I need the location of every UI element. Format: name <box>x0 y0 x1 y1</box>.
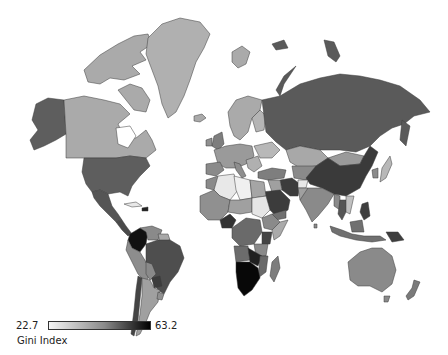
legend-title: Gini Index <box>17 335 67 346</box>
region-madagascar[interactable] <box>270 256 280 282</box>
region-namibia-botswana[interactable] <box>236 262 260 296</box>
legend-max-label: 63.2 <box>155 320 177 331</box>
region-australia[interactable] <box>348 248 396 292</box>
region-korea[interactable] <box>372 168 378 178</box>
world-choropleth-map <box>0 0 448 355</box>
legend-color-scale <box>48 321 151 330</box>
region-united-states[interactable] <box>82 156 150 196</box>
region-sri-lanka[interactable] <box>314 224 317 228</box>
region-haiti[interactable] <box>142 207 148 211</box>
region-ireland[interactable] <box>206 138 212 146</box>
region-tasmania[interactable] <box>384 296 390 302</box>
region-philippines[interactable] <box>360 202 370 220</box>
region-niger-chad[interactable] <box>228 198 252 214</box>
legend-min-label: 22.7 <box>16 320 38 331</box>
region-egypt[interactable] <box>250 180 266 198</box>
region-arctic-canada[interactable] <box>84 34 152 84</box>
region-cuba[interactable] <box>124 202 142 207</box>
region-vietnam[interactable] <box>346 196 354 214</box>
legend: 22.7 63.2 Gini Index <box>14 316 244 352</box>
region-libya[interactable] <box>234 176 252 200</box>
region-turkey[interactable] <box>258 168 286 180</box>
region-central-africa[interactable] <box>232 218 262 246</box>
region-central-america[interactable] <box>116 220 132 236</box>
region-mexico[interactable] <box>92 190 122 222</box>
region-angola[interactable] <box>234 246 250 262</box>
region-iberia[interactable] <box>206 162 224 176</box>
region-afghanistan[interactable] <box>298 180 308 188</box>
region-franz-josef[interactable] <box>272 40 288 50</box>
region-svalbard[interactable] <box>232 46 250 68</box>
region-kenya[interactable] <box>262 232 272 244</box>
region-kamchatka[interactable] <box>400 120 410 146</box>
region-alaska[interactable] <box>30 98 66 150</box>
region-papua-new-guinea[interactable] <box>386 232 404 242</box>
region-greenland[interactable] <box>146 18 210 118</box>
region-new-zealand[interactable] <box>406 280 420 300</box>
region-borneo[interactable] <box>350 220 364 232</box>
region-paraguay[interactable] <box>152 276 162 288</box>
region-japan[interactable] <box>380 156 392 182</box>
region-india[interactable] <box>300 188 334 222</box>
region-ukraine[interactable] <box>254 142 280 158</box>
region-iceland[interactable] <box>194 114 206 122</box>
region-severny[interactable] <box>324 40 340 62</box>
